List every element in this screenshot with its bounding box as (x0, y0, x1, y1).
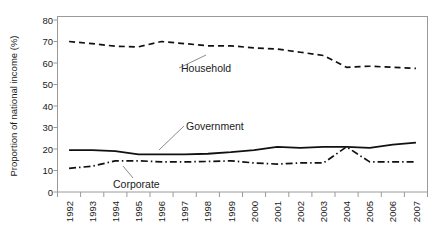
y-tick-label: 0 (48, 187, 53, 198)
x-tick-label: 1993 (87, 201, 98, 222)
y-tick-label: 30 (42, 122, 53, 133)
x-tick-label: 1999 (226, 201, 237, 222)
government-annotation-label: Government (186, 120, 244, 132)
x-tick-label: 1996 (156, 201, 167, 222)
x-tick-label: 1992 (64, 201, 75, 222)
x-tick-label: 2000 (249, 201, 260, 222)
y-axis-title: Proportion of national income (%) (8, 36, 19, 177)
y-tick-label: 50 (42, 79, 53, 90)
y-tick-label: 60 (42, 58, 53, 69)
x-tick-label: 2006 (387, 201, 398, 222)
x-tick-label: 1994 (110, 201, 121, 222)
line-chart-figure: Proportion of national income (%) 80 70 … (0, 0, 440, 244)
y-tick-label: 70 (42, 36, 53, 47)
y-tick-label: 20 (42, 144, 53, 155)
corporate-annotation-label: Corporate (113, 178, 160, 190)
x-tick-label: 2004 (341, 201, 352, 222)
y-tick-label: 80 (42, 15, 53, 26)
y-tick-label: 10 (42, 165, 53, 176)
chart-svg: Proportion of national income (%) 80 70 … (0, 0, 440, 244)
x-tick-label: 1995 (133, 201, 144, 222)
x-tick-label: 2005 (364, 201, 375, 222)
x-tick-label: 2002 (295, 201, 306, 222)
x-tick-label: 2001 (272, 201, 283, 222)
household-annotation-label: Household (181, 62, 231, 74)
x-tick-label: 2007 (411, 201, 422, 222)
y-tick-label: 40 (42, 101, 53, 112)
x-tick-label: 2003 (318, 201, 329, 222)
x-tick-label: 1998 (202, 201, 213, 222)
y-axis-tick-labels: 80 70 60 50 40 30 20 10 0 (42, 15, 53, 198)
x-tick-label: 1997 (179, 201, 190, 222)
